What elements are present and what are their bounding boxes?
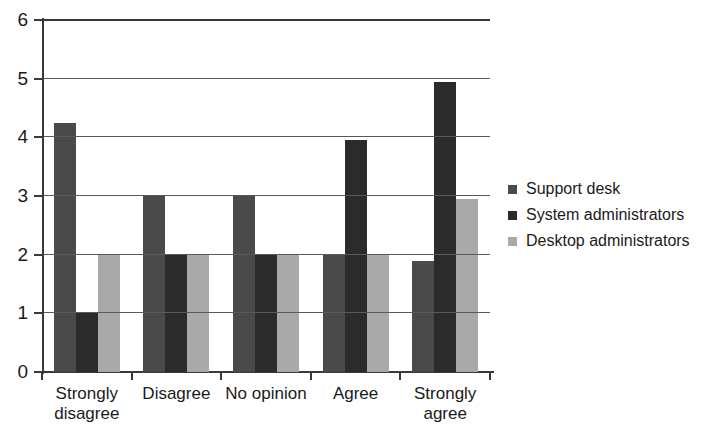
bar[interactable] — [345, 140, 367, 372]
bar[interactable] — [187, 255, 209, 372]
bar[interactable] — [456, 199, 478, 372]
x-axis-tick — [131, 371, 133, 380]
y-axis-label: 1 — [0, 303, 28, 322]
y-axis-label: 5 — [0, 69, 28, 88]
y-axis-tick — [34, 136, 44, 138]
legend-item[interactable]: Support desk — [508, 176, 708, 202]
y-axis-tick — [34, 195, 44, 197]
bar[interactable] — [434, 82, 456, 372]
gridline — [42, 19, 490, 21]
legend-item[interactable]: Desktop administrators — [508, 228, 708, 254]
legend-item[interactable]: System administrators — [508, 202, 708, 228]
legend-swatch-system-administrators — [508, 211, 517, 220]
bar[interactable] — [143, 196, 165, 372]
bar-group — [221, 20, 311, 372]
y-axis-label: 6 — [0, 10, 28, 29]
y-axis-tick — [34, 312, 44, 314]
y-axis-tick — [34, 78, 44, 80]
x-axis-tick — [489, 371, 491, 380]
gridline — [42, 195, 490, 196]
bar[interactable] — [277, 255, 299, 372]
y-axis-label: 3 — [0, 186, 28, 205]
y-axis-label: 0 — [0, 362, 28, 381]
x-axis-tick — [310, 371, 312, 380]
legend-swatch-support-desk — [508, 185, 517, 194]
bar-group — [311, 20, 401, 372]
legend-label: Desktop administrators — [526, 232, 690, 250]
gridline — [42, 136, 490, 137]
x-axis-tick — [399, 371, 401, 380]
gridline — [42, 78, 490, 79]
bar-group — [400, 20, 490, 372]
chart-legend: Support desk System administrators Deskt… — [508, 176, 708, 254]
x-axis-tick — [220, 371, 222, 380]
y-axis-label: 4 — [0, 127, 28, 146]
bar[interactable] — [233, 196, 255, 372]
bar[interactable] — [76, 313, 98, 372]
bar-group — [132, 20, 222, 372]
bar[interactable] — [98, 255, 120, 372]
legend-swatch-desktop-administrators — [508, 237, 517, 246]
y-axis-tick — [34, 19, 44, 21]
bar[interactable] — [165, 255, 187, 372]
bar-group — [42, 20, 132, 372]
legend-label: System administrators — [526, 206, 684, 224]
bar[interactable] — [367, 255, 389, 372]
gridline — [42, 312, 490, 313]
y-axis-tick — [34, 254, 44, 256]
y-axis-label: 2 — [0, 245, 28, 264]
bar-chart-figure: 0123456 Strongly disagreeDisagreeNo opin… — [0, 0, 713, 442]
gridline — [42, 254, 490, 255]
bar[interactable] — [255, 255, 277, 372]
legend-label: Support desk — [526, 180, 620, 198]
x-axis-label: Strongly agree — [392, 384, 498, 424]
bar[interactable] — [323, 255, 345, 372]
bar[interactable] — [54, 123, 76, 372]
plot-area — [42, 20, 490, 372]
x-axis-tick — [41, 371, 43, 380]
bar[interactable] — [412, 261, 434, 372]
